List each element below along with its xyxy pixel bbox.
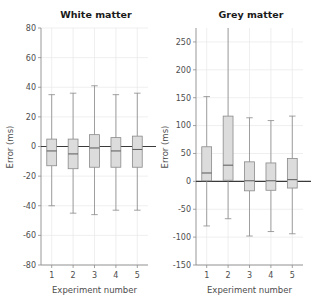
- box-iqr: [47, 139, 57, 166]
- y-tick-label--100: -100: [173, 233, 191, 242]
- y-tick-label-0: 0: [31, 142, 36, 151]
- box-iqr: [132, 136, 142, 167]
- y-tick-label--80: -80: [23, 261, 36, 270]
- x-tick-label-3: 3: [247, 271, 252, 280]
- y-tick-label-80: 80: [26, 24, 36, 33]
- y-tick-label-250: 250: [176, 38, 191, 47]
- panel-right: 250200150100500-50-100-15012345Grey matt…: [160, 9, 311, 295]
- y-tick-label--60: -60: [23, 231, 36, 240]
- panel-title-right: Grey matter: [219, 9, 284, 20]
- box-iqr: [202, 147, 212, 181]
- y-tick-label--50: -50: [178, 205, 191, 214]
- box-left-2: [68, 93, 78, 213]
- box-iqr: [245, 162, 255, 191]
- x-tick-label-5: 5: [290, 271, 295, 280]
- x-tick-label-2: 2: [71, 271, 76, 280]
- panel-left: 806040200-20-40-60-8012345White matterEx…: [5, 9, 156, 295]
- box-left-3: [90, 86, 100, 215]
- y-tick-label-0: 0: [186, 177, 191, 186]
- panel-title-left: White matter: [60, 9, 132, 20]
- x-axis-label-right: Experiment number: [207, 285, 292, 295]
- box-left-1: [47, 95, 57, 206]
- box-left-4: [111, 95, 121, 211]
- boxplot-figure: 806040200-20-40-60-8012345White matterEx…: [0, 0, 319, 302]
- x-axis-label-left: Experiment number: [52, 285, 137, 295]
- x-tick-label-1: 1: [49, 271, 54, 280]
- x-tick-label-1: 1: [204, 271, 209, 280]
- box-left-5: [132, 93, 142, 210]
- y-tick-label-200: 200: [176, 66, 191, 75]
- y-axis-label-right: Error (ms): [160, 126, 170, 169]
- x-tick-label-2: 2: [226, 271, 231, 280]
- box-right-3: [245, 118, 255, 236]
- box-iqr: [223, 116, 233, 180]
- box-iqr: [266, 163, 276, 190]
- box-iqr: [287, 158, 297, 188]
- x-tick-label-5: 5: [135, 271, 140, 280]
- y-tick-label--150: -150: [173, 261, 191, 270]
- boxplot-svg: 806040200-20-40-60-8012345White matterEx…: [0, 0, 319, 302]
- box-iqr: [111, 138, 121, 168]
- y-tick-label--40: -40: [23, 202, 36, 211]
- y-tick-label-50: 50: [181, 149, 191, 158]
- box-right-1: [202, 97, 212, 226]
- box-right-5: [287, 116, 297, 234]
- x-tick-label-3: 3: [92, 271, 97, 280]
- box-right-4: [266, 121, 276, 232]
- y-tick-label-40: 40: [26, 83, 36, 92]
- y-tick-label-60: 60: [26, 54, 36, 63]
- y-tick-label-100: 100: [176, 121, 191, 130]
- box-iqr: [90, 135, 100, 168]
- y-axis-label-left: Error (ms): [5, 126, 15, 169]
- x-tick-label-4: 4: [268, 271, 273, 280]
- y-tick-label--20: -20: [23, 172, 36, 181]
- y-tick-label-150: 150: [176, 94, 191, 103]
- y-tick-label-20: 20: [26, 113, 36, 122]
- box-right-2: [223, 28, 233, 219]
- x-tick-label-4: 4: [113, 271, 118, 280]
